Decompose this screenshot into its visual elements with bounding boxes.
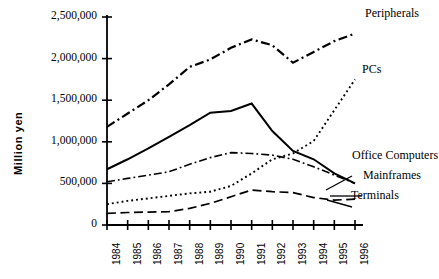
x-axis-tick-label: 1989 <box>214 243 225 265</box>
y-axis-tick-label: 1,500,000 <box>0 92 97 104</box>
x-axis-tick-label: 1993 <box>297 243 308 265</box>
series-line-terminals <box>107 190 355 213</box>
series-label-office-computers: Office Computers <box>352 148 438 163</box>
x-axis-tick-label: 1990 <box>235 243 246 265</box>
y-axis-tick-label: 500,000 <box>0 175 97 187</box>
x-axis-tick-label: 1984 <box>111 243 122 265</box>
series-line-office-computers <box>107 104 355 184</box>
y-axis-tick-label: 1,000,000 <box>0 134 97 146</box>
chart-series-group <box>107 34 362 214</box>
series-label-mainframes: Mainframes <box>363 168 421 183</box>
series-line-mainframes <box>107 153 355 184</box>
y-axis-tick-label: 2,000,000 <box>0 51 97 63</box>
x-axis-tick-label: 1991 <box>256 243 267 265</box>
series-label-peripherals: Peripherals <box>365 6 419 21</box>
x-axis-tick-label: 1995 <box>338 243 349 265</box>
x-axis-tick-label: 1996 <box>359 243 370 265</box>
annotation-leader-line <box>326 176 352 190</box>
x-axis-tick-label: 1986 <box>152 243 163 265</box>
series-label-pcs: PCs <box>362 62 381 77</box>
x-axis-tick-label: 1987 <box>173 243 184 265</box>
series-label-terminals: Terminals <box>351 188 399 203</box>
series-line-pcs <box>107 79 355 204</box>
y-axis-tick-label: 2,500,000 <box>0 9 97 21</box>
y-axis-tick-label: 0 <box>0 217 97 229</box>
chart-container: Million yen 2,500,0002,000,0001,500,0001… <box>0 0 439 279</box>
annotation-leader-line <box>327 200 352 207</box>
x-axis-tick-label: 1985 <box>132 243 143 265</box>
x-axis-tick-label: 1994 <box>318 243 329 265</box>
series-line-peripherals <box>107 34 355 127</box>
x-axis-tick-label: 1992 <box>276 243 287 265</box>
x-axis-tick-label: 1988 <box>194 243 205 265</box>
